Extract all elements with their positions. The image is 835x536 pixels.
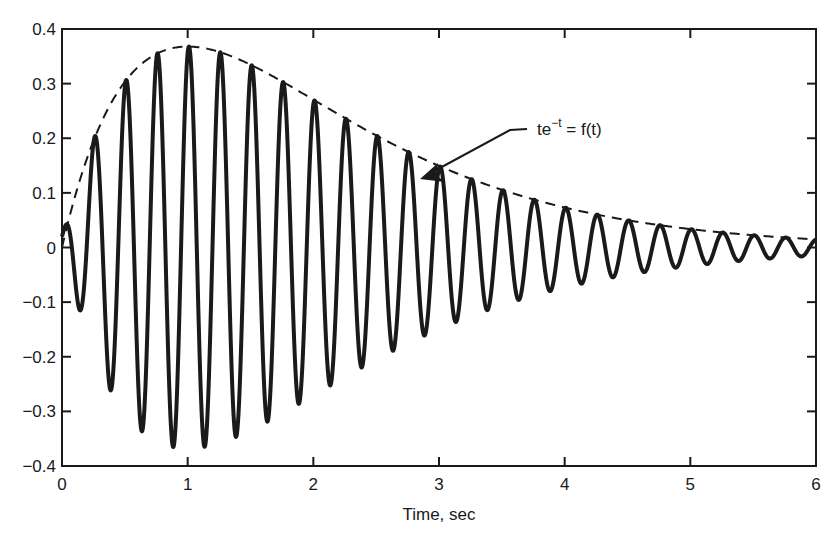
oscillation-line	[62, 47, 816, 447]
x-tick-label: 4	[560, 475, 569, 494]
annotation: te−t = f(t)	[420, 116, 602, 182]
x-axis-title: Time, sec	[402, 505, 476, 524]
x-tick-label: 2	[309, 475, 318, 494]
x-tick-label: 0	[57, 475, 66, 494]
y-tick-label: 0.2	[32, 129, 56, 148]
chart: 0.40.30.20.10−0.1−0.2−0.3−0.4 0123456 te…	[0, 0, 835, 536]
y-tick-label: −0.1	[22, 293, 56, 312]
annotation-label: te−t = f(t)	[537, 116, 602, 139]
x-tick-labels: 0123456	[57, 475, 820, 494]
x-tick-label: 6	[811, 475, 820, 494]
x-tick-label: 5	[686, 475, 695, 494]
envelope-dashed-line	[62, 47, 816, 248]
y-tick-label: −0.2	[22, 348, 56, 367]
y-tick-label: 0.1	[32, 184, 56, 203]
y-tick-label: −0.4	[22, 457, 56, 476]
x-tick-label: 3	[434, 475, 443, 494]
y-tick-label: 0	[47, 239, 56, 258]
x-tick-label: 1	[183, 475, 192, 494]
y-tick-labels: 0.40.30.20.10−0.1−0.2−0.3−0.4	[22, 20, 56, 476]
y-tick-label: −0.3	[22, 402, 56, 421]
y-tick-label: 0.3	[32, 75, 56, 94]
y-tick-label: 0.4	[32, 20, 56, 39]
